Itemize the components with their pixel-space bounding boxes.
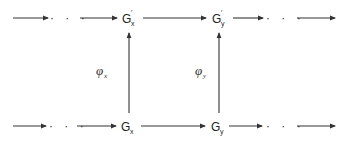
vertical-map-phi-x: φ x [96,33,129,113]
node-g-y-prime: G ′ y [212,9,225,28]
node-base: G [121,120,130,134]
phi-x-symbol: φ [96,63,103,78]
top-row: · · · G ′ x G ′ y · · · [13,9,335,28]
bottom-row: · · · G x G y · · · [13,119,335,136]
node-subscript: y [220,128,224,136]
node-prime: ′ [221,9,223,16]
node-base: G [122,12,131,26]
node-base: G [211,120,220,134]
node-subscript: y [221,20,225,28]
commutative-diagram: · · · G ′ x G ′ y · · · φ x φ y · · · [0,0,356,143]
node-subscript: x [131,20,135,27]
phi-x-subscript: x [103,72,108,80]
phi-y-subscript: y [202,72,207,80]
node-g-y: G y [211,120,224,136]
node-subscript: x [130,128,134,135]
node-prime: ′ [131,9,133,16]
vertical-map-phi-y: φ y [195,33,219,113]
node-g-x-prime: G ′ x [122,9,135,27]
node-g-x: G x [121,120,134,135]
phi-y-symbol: φ [195,63,202,78]
node-base: G [212,12,221,26]
